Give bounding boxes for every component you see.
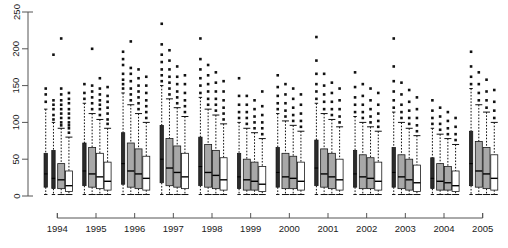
outlier-point: [362, 103, 365, 106]
box: [199, 137, 202, 186]
outlier-point: [145, 111, 148, 114]
outlier-point: [122, 78, 125, 81]
boxplot-chart: 0501001502002501994199519961997199819992…: [0, 0, 508, 248]
outlier-point: [416, 124, 419, 127]
outlier-point: [377, 126, 380, 129]
outlier-point: [68, 92, 71, 95]
x-tick-label: 1995: [85, 223, 106, 234]
box: [483, 147, 490, 188]
outlier-point: [315, 90, 318, 93]
outlier-point: [392, 99, 395, 102]
outlier-point: [315, 73, 318, 76]
outlier-point: [276, 74, 279, 77]
outlier-point: [416, 108, 419, 111]
outlier-point: [431, 99, 434, 102]
outlier-point: [168, 59, 171, 62]
outlier-point: [215, 109, 218, 112]
outlier-point: [331, 108, 334, 111]
outlier-point: [246, 103, 249, 106]
outlier-point: [362, 95, 365, 98]
outlier-point: [315, 59, 318, 62]
outlier-point: [137, 108, 140, 111]
outlier-point: [408, 100, 411, 103]
outlier-point: [160, 68, 163, 71]
outlier-point: [331, 81, 334, 84]
outlier-point: [207, 64, 210, 67]
outlier-point: [284, 109, 287, 112]
outlier-point: [91, 108, 94, 111]
outlier-point: [184, 74, 187, 77]
x-axis-line: [57, 213, 482, 218]
outlier-point: [377, 92, 380, 95]
outlier-point: [400, 81, 403, 84]
outlier-point: [199, 84, 202, 87]
box: [135, 149, 142, 189]
box: [328, 153, 335, 188]
outlier-point: [44, 87, 47, 90]
outlier-point: [145, 92, 148, 95]
outlier-point: [176, 90, 179, 93]
outlier-point: [122, 58, 125, 61]
box: [469, 131, 472, 185]
x-tick-label: 2005: [472, 223, 493, 234]
outlier-point: [99, 103, 102, 106]
box: [452, 171, 459, 192]
box: [174, 146, 181, 187]
outlier-point: [338, 115, 341, 118]
outlier-point: [454, 139, 457, 142]
outlier-point: [431, 117, 434, 120]
outlier-point: [416, 96, 419, 99]
outlier-point: [493, 100, 496, 103]
box: [431, 158, 434, 189]
y-tick-label: 0: [11, 193, 22, 198]
outlier-point: [52, 118, 55, 121]
outlier-point: [485, 99, 488, 102]
outlier-point: [354, 96, 357, 99]
outlier-point: [439, 128, 442, 131]
outlier-point: [215, 103, 218, 106]
outlier-point: [68, 131, 71, 134]
outlier-point: [292, 120, 295, 123]
outlier-point: [215, 90, 218, 93]
outlier-point: [478, 71, 481, 74]
box: [89, 147, 96, 187]
y-tick-label: 50: [11, 154, 22, 165]
outlier-point: [99, 87, 102, 90]
outlier-point: [60, 108, 63, 111]
outlier-point: [44, 93, 47, 96]
outlier-point: [184, 99, 187, 102]
box: [160, 125, 163, 182]
outlier-point: [300, 93, 303, 96]
y-tick-label: 250: [11, 4, 22, 20]
outlier-point: [60, 112, 63, 115]
outlier-point: [354, 86, 357, 89]
outlier-point: [478, 92, 481, 95]
outlier-point: [99, 108, 102, 111]
box: [121, 133, 124, 185]
x-tick-label: 1997: [163, 223, 184, 234]
box: [83, 143, 86, 186]
outlier-point: [485, 106, 488, 109]
box: [444, 167, 451, 191]
outlier-point: [238, 117, 241, 120]
outlier-point: [222, 106, 225, 109]
outlier-point: [199, 37, 202, 40]
outlier-point: [130, 99, 133, 102]
outlier-point: [392, 90, 395, 93]
outlier-point: [354, 111, 357, 114]
outlier-point: [60, 121, 63, 124]
outlier-point: [338, 108, 341, 111]
outlier-point: [276, 86, 279, 89]
outlier-point: [60, 37, 63, 40]
outlier-point: [52, 99, 55, 102]
outlier-point: [323, 84, 326, 87]
outlier-point: [160, 43, 163, 46]
outlier-point: [323, 100, 326, 103]
outlier-point: [199, 68, 202, 71]
box: [96, 153, 103, 188]
outlier-point: [331, 92, 334, 95]
outlier-point: [176, 75, 179, 78]
box: [212, 150, 219, 188]
box: [353, 150, 356, 187]
outlier-point: [439, 115, 442, 118]
